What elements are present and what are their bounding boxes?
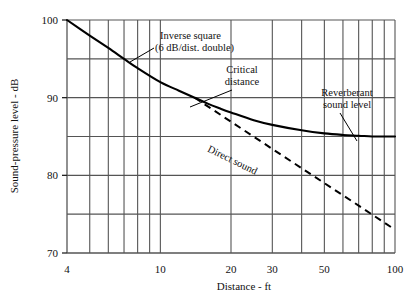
x-tick-label: 20 (226, 263, 238, 275)
x-tick-labels: 410203050100 (64, 263, 404, 275)
annotation-reverberant-line2: sound level (323, 99, 371, 110)
x-tick-label: 100 (387, 263, 404, 275)
x-axis-title: Distance - ft (217, 280, 271, 292)
annotation-inverse-square-line2: (6 dB/dist. double) (155, 42, 235, 54)
y-tick-label: 80 (47, 169, 59, 181)
figure-container: 708090100 410203050100 Sound-pressure le… (0, 0, 420, 307)
x-tick-label: 4 (64, 263, 70, 275)
annotation-critical-distance-line1: Critical (226, 64, 258, 75)
x-tick-label: 30 (267, 263, 279, 275)
sound-pressure-vs-distance-chart: 708090100 410203050100 Sound-pressure le… (0, 0, 420, 307)
y-axis-title: Sound-pressure level - dB (8, 79, 20, 194)
annotation-reverberant-line1: Reverberant (321, 87, 372, 98)
y-tick-labels: 708090100 (42, 14, 59, 259)
annotation-critical-distance-line2: distance (225, 76, 260, 87)
y-tick-label: 70 (47, 247, 59, 259)
y-tick-label: 90 (47, 92, 59, 104)
x-tick-label: 50 (319, 263, 331, 275)
x-tick-label: 10 (155, 263, 167, 275)
y-tick-label: 100 (42, 14, 59, 26)
y-tick-marks (62, 20, 67, 253)
annotation-inverse-square-line1: Inverse square (160, 30, 221, 41)
